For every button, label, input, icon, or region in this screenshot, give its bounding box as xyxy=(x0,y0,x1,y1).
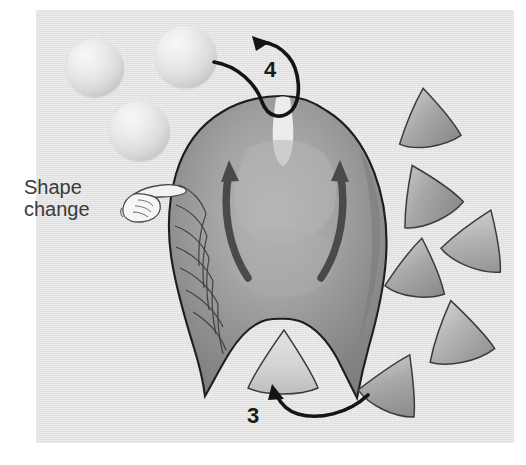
shape-change-line-2: change xyxy=(24,198,124,220)
sphere-1 xyxy=(66,39,124,97)
step-label-4: 4 xyxy=(264,57,276,83)
step-label-3: 3 xyxy=(247,403,259,429)
shape-change-label: Shape change xyxy=(24,176,124,221)
sphere-3 xyxy=(110,101,170,161)
pointing-hand-icon xyxy=(118,178,190,224)
shape-change-line-1: Shape xyxy=(24,176,124,198)
sphere-2 xyxy=(155,26,217,88)
figure-root: 4 3 Shape change xyxy=(0,0,526,465)
